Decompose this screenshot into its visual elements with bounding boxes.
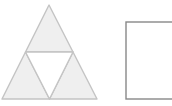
figure-canvas bbox=[0, 0, 172, 106]
empty-rectangle bbox=[126, 22, 172, 99]
geometry-figure-svg bbox=[0, 0, 172, 106]
sierpinski-triangle-group bbox=[2, 5, 97, 99]
top-sub-triangle bbox=[26, 5, 74, 52]
